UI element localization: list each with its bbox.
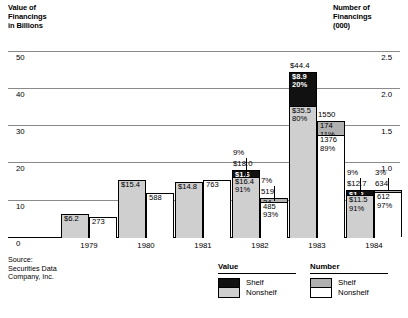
number-bar-1980-seg-total-label-0: 588 [149, 194, 162, 203]
number-bar-1982-seg-nonshelf-label-1: 93% [263, 211, 278, 220]
right-axis-title: Number of Financings (000) [333, 3, 372, 31]
value-bar-1979: $6.2 [61, 214, 89, 237]
left-tick-30: 30 [16, 127, 25, 136]
plot-area: 50403020100 2.52.01.51.00.5 $6.2273$15.4… [8, 32, 400, 237]
number-bar-1983-seg-nonshelf-label-1: 89% [320, 145, 335, 154]
number-total-label-1984: 634 [375, 179, 388, 188]
legend-swatch-number-shelf [310, 278, 332, 288]
number-bar-1979-seg-total: 273 [90, 218, 116, 238]
value-bar-1981-seg-total: $14.8 [176, 183, 202, 238]
legend-swatch-number-nonshelf [310, 288, 332, 298]
legend-number-rows: Shelf Nonshelf [310, 278, 388, 300]
value-shelf-pct-callout-1984: 9% [347, 168, 358, 177]
left-tick-40: 40 [16, 90, 25, 99]
number-bar-1981: 763 [203, 180, 231, 237]
number-bar-1984-seg-nonshelf: 61297% [375, 192, 401, 238]
chart-figure: Value of Financings in Billions Number o… [0, 0, 408, 318]
number-bar-1980: 588 [146, 193, 174, 237]
legend-number-header: Number [310, 262, 388, 274]
value-bar-1982: $1.6$16.491% [232, 170, 260, 237]
value-bar-1980-seg-total: $15.4 [119, 181, 145, 238]
number-callout-leader-1982 [274, 186, 275, 201]
left-tick-10: 10 [16, 202, 25, 211]
value-bar-1983-seg-shelf: $8.920% [290, 73, 316, 106]
value-bar-1984-seg-nonshelf: $11.591% [347, 195, 373, 238]
value-bar-1983-seg-nonshelf-label-1: 80% [292, 115, 307, 124]
x-label-1979: 1979 [61, 241, 117, 250]
value-bar-1979-seg-total-label-0: $6.2 [64, 215, 79, 224]
value-callout-leader-1982 [246, 158, 247, 176]
number-total-label-1982: 519 [261, 187, 274, 196]
left-axis-title: Value of Financings in Billions [8, 3, 47, 31]
number-shelf-pct-callout-1984: 3% [375, 168, 386, 177]
number-callout-leader-1984 [388, 178, 389, 192]
number-bar-1983: 17411%137689% [317, 121, 345, 237]
value-bar-1980-seg-total-label-0: $15.4 [121, 181, 140, 190]
legend-swatch-value-shelf [218, 278, 240, 288]
number-bar-1981-seg-total: 763 [204, 181, 230, 238]
number-shelf-pct-callout-1982: 7% [261, 176, 272, 185]
value-total-label-1983: $44.4 [290, 61, 310, 70]
value-bar-1982-seg-nonshelf-label-1: 91% [235, 186, 250, 195]
x-label-1982: 1982 [232, 241, 288, 250]
legend-value-block: Value Shelf Nonshelf [218, 262, 296, 300]
number-total-label-1983: 1550 [318, 110, 335, 119]
value-bar-1981-seg-total-label-0: $14.8 [178, 183, 197, 192]
gridline-50 [8, 51, 400, 52]
gridline-40 [8, 88, 400, 89]
right-tick-2.0: 2.0 [381, 90, 392, 99]
number-bar-1981-seg-total-label-0: 763 [206, 181, 219, 190]
left-tick-0: 0 [16, 239, 20, 248]
number-bar-1979-seg-total-label-0: 273 [92, 218, 105, 227]
legend-label-number-shelf: Shelf [338, 278, 356, 288]
number-bar-1984-seg-nonshelf-label-1: 97% [377, 202, 392, 211]
x-label-1984: 1984 [346, 241, 402, 250]
legend-swatch-value-nonshelf [218, 288, 240, 298]
number-bar-1984: 2261297% [374, 190, 402, 237]
number-bar-1983-seg-nonshelf: 137689% [318, 135, 344, 238]
number-bar-1982: 3448593% [260, 198, 288, 237]
value-callout-leader-1984 [360, 178, 361, 194]
value-bar-1979-seg-total: $6.2 [62, 215, 88, 238]
value-bar-1982-seg-nonshelf: $16.491% [233, 177, 259, 238]
x-label-1980: 1980 [118, 241, 174, 250]
value-bar-1983: $8.920%$35.580% [289, 72, 317, 237]
number-bar-1979: 273 [89, 217, 117, 237]
value-bar-1983-seg-nonshelf: $35.580% [290, 106, 316, 238]
value-total-label-1984: $12.7 [347, 179, 367, 188]
legend-number-block: Number Shelf Nonshelf [310, 262, 388, 300]
value-bar-1984: $1.2$11.591% [346, 190, 374, 237]
right-tick-1.5: 1.5 [381, 127, 392, 136]
value-bar-1980: $15.4 [118, 180, 146, 237]
legend-label-value-nonshelf: Nonshelf [246, 288, 277, 298]
value-bar-1981: $14.8 [175, 182, 203, 237]
left-tick-20: 20 [16, 164, 25, 173]
legend-value-rows: Shelf Nonshelf [218, 278, 296, 300]
value-bar-1983-seg-shelf-label-1: 20% [292, 81, 307, 90]
value-shelf-pct-callout-1982: 9% [233, 148, 244, 157]
left-tick-50: 50 [16, 53, 25, 62]
number-bar-1983-seg-shelf: 17411% [318, 122, 344, 135]
number-bar-1982-seg-nonshelf: 48593% [261, 202, 287, 238]
source-note: Source: Securities Data Company, Inc. [8, 256, 57, 282]
right-tick-2.5: 2.5 [381, 53, 392, 62]
legend-label-number-nonshelf: Nonshelf [338, 288, 369, 298]
number-bar-1980-seg-total: 588 [147, 194, 173, 238]
value-bar-1984-seg-nonshelf-label-1: 91% [349, 205, 364, 214]
x-label-1981: 1981 [175, 241, 231, 250]
value-total-label-1982: $18.0 [233, 159, 253, 168]
legend-label-value-shelf: Shelf [246, 278, 264, 288]
x-label-1983: 1983 [289, 241, 345, 250]
legend-value-header: Value [218, 262, 296, 274]
